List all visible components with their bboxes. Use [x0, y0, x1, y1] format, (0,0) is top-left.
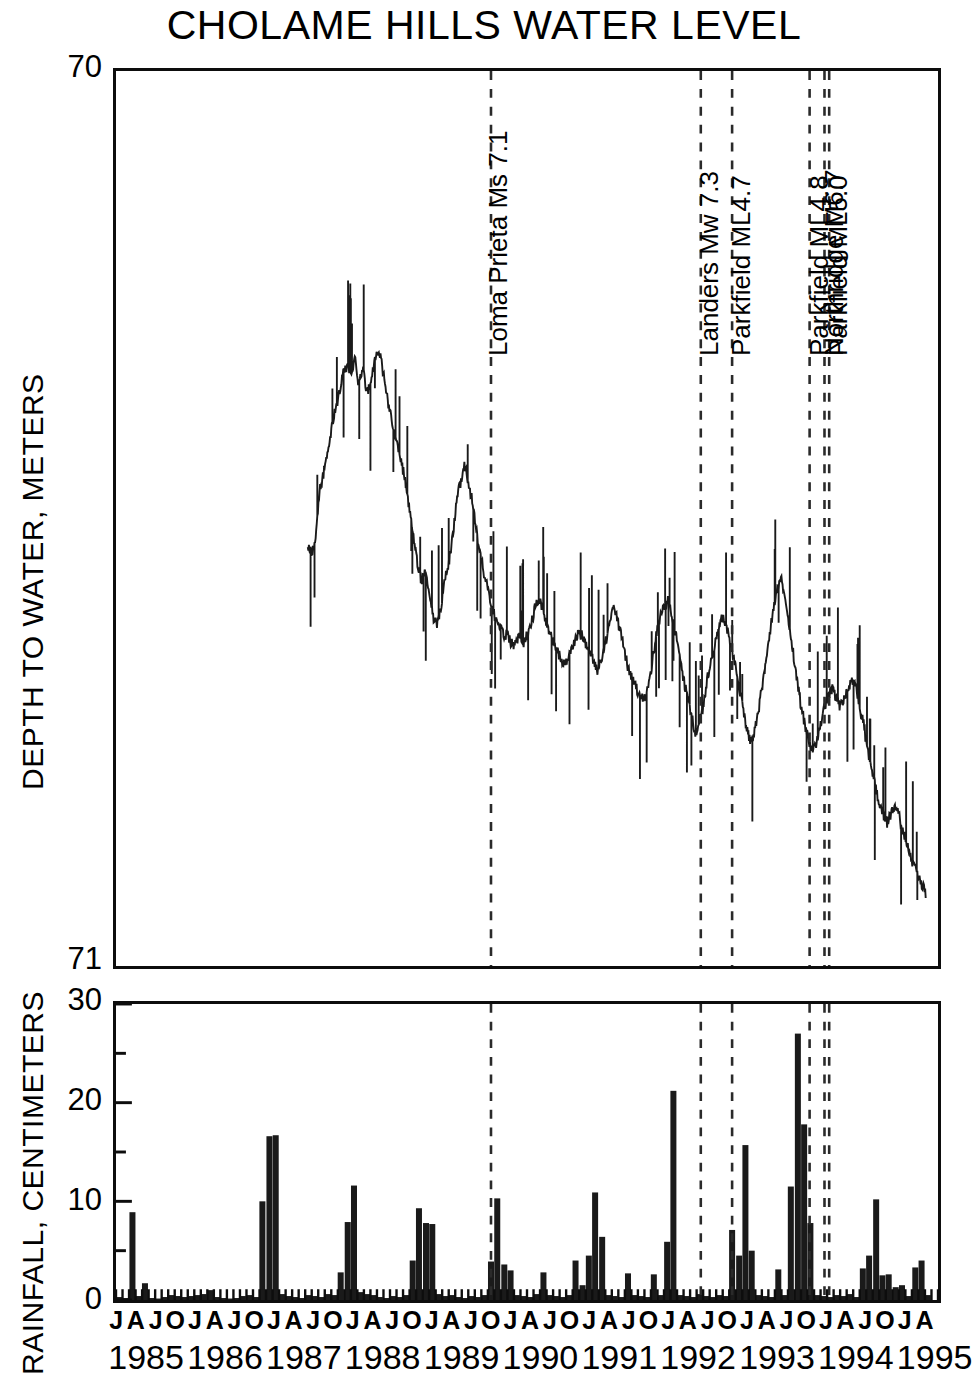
- x-month-label: J: [819, 1306, 833, 1335]
- x-month-label: A: [600, 1306, 618, 1335]
- x-year-label: 1987: [266, 1338, 342, 1377]
- x-month-label: O: [796, 1306, 815, 1335]
- rainfall-plot-area: [116, 1004, 938, 1300]
- page-title: CHOLAME HILLS WATER LEVEL: [0, 2, 968, 49]
- x-year-label: 1992: [660, 1338, 736, 1377]
- x-month-label: A: [206, 1306, 224, 1335]
- x-month-label: A: [127, 1306, 145, 1335]
- event-label-5: Parkfield ML5.0: [823, 175, 854, 356]
- rainfall-plot-panel: [113, 1001, 941, 1303]
- x-month-label: J: [188, 1306, 202, 1335]
- rainfall-axis-tick-20: 20: [40, 1082, 102, 1118]
- x-month-label: J: [346, 1306, 360, 1335]
- x-month-label: J: [267, 1306, 281, 1335]
- x-year-label: 1989: [424, 1338, 500, 1377]
- event-label-0: Loma Prieta Ms 7.1: [483, 131, 514, 356]
- x-month-label: A: [442, 1306, 460, 1335]
- x-month-label: J: [740, 1306, 754, 1335]
- x-month-label: J: [306, 1306, 320, 1335]
- x-month-label: J: [661, 1306, 675, 1335]
- x-month-label: J: [425, 1306, 439, 1335]
- x-month-label: O: [323, 1306, 342, 1335]
- x-month-label: O: [166, 1306, 185, 1335]
- x-month-label: J: [227, 1306, 241, 1335]
- x-month-label: A: [837, 1306, 855, 1335]
- rainfall-axis-tick-30: 30: [40, 982, 102, 1018]
- x-month-label: J: [464, 1306, 478, 1335]
- event-label-2: Parkfield ML4.7: [726, 175, 757, 356]
- water-axis-tick-71: 71: [44, 941, 102, 977]
- rainfall-svg: [116, 1004, 938, 1300]
- water-panel-y-axis-title: DEPTH TO WATER, METERS: [16, 373, 50, 790]
- x-month-label: J: [385, 1306, 399, 1335]
- x-month-label: O: [875, 1306, 894, 1335]
- x-year-label: 1993: [739, 1338, 815, 1377]
- x-month-label: J: [779, 1306, 793, 1335]
- x-month-label: J: [858, 1306, 872, 1335]
- x-month-label: J: [701, 1306, 715, 1335]
- x-month-label: A: [915, 1306, 933, 1335]
- water-axis-tick-70: 70: [44, 49, 102, 85]
- x-month-label: O: [639, 1306, 658, 1335]
- x-month-label: A: [521, 1306, 539, 1335]
- x-month-label: O: [244, 1306, 263, 1335]
- x-month-label: A: [285, 1306, 303, 1335]
- x-year-label: 1991: [581, 1338, 657, 1377]
- x-year-label: 1994: [818, 1338, 894, 1377]
- x-month-label: J: [622, 1306, 636, 1335]
- x-month-label: A: [679, 1306, 697, 1335]
- x-year-label: 1986: [187, 1338, 263, 1377]
- x-axis-year-labels: 1985198619871988198919901991199219931994…: [113, 1338, 941, 1380]
- x-month-label: J: [109, 1306, 123, 1335]
- x-year-label: 1990: [503, 1338, 579, 1377]
- x-year-label: 1985: [108, 1338, 184, 1377]
- x-month-label: O: [481, 1306, 500, 1335]
- x-month-label: O: [402, 1306, 421, 1335]
- x-month-label: J: [503, 1306, 517, 1335]
- x-month-label: A: [758, 1306, 776, 1335]
- rainfall-axis-tick-10: 10: [40, 1182, 102, 1218]
- x-axis-month-ticks: JAJOJAJOJAJOJAJOJAJOJAJOJAJOJAJOJAJOJAJO…: [113, 1306, 941, 1340]
- rainfall-axis-tick-0: 0: [40, 1281, 102, 1317]
- x-year-label: 1988: [345, 1338, 421, 1377]
- x-month-label: A: [363, 1306, 381, 1335]
- x-month-label: J: [898, 1306, 912, 1335]
- x-month-label: J: [543, 1306, 557, 1335]
- x-month-label: J: [149, 1306, 163, 1335]
- event-label-1: Landers Mw 7.3: [694, 171, 725, 356]
- x-month-label: O: [718, 1306, 737, 1335]
- x-month-label: O: [560, 1306, 579, 1335]
- x-month-label: J: [582, 1306, 596, 1335]
- x-year-label: 1995: [897, 1338, 973, 1377]
